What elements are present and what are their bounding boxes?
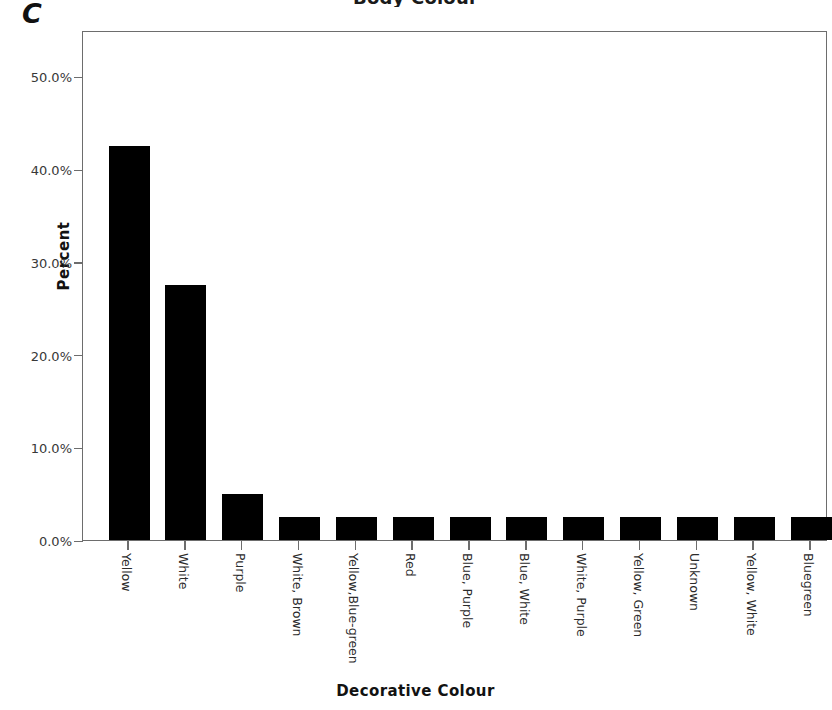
y-axis-tick-label: 40.0% (31, 163, 72, 178)
x-axis-tick-mark (355, 541, 356, 550)
x-axis-tick-mark (809, 541, 810, 550)
x-axis-tick-mark (696, 541, 697, 550)
x-axis-category-label: Blue, Purple (460, 553, 475, 628)
x-axis-tick-mark (411, 541, 412, 550)
x-axis-tick-mark (639, 541, 640, 550)
x-axis-tick-mark (582, 541, 583, 550)
bar (620, 517, 661, 540)
bar (450, 517, 491, 540)
x-axis-category-label: Yellow, White (744, 553, 759, 636)
x-axis-tick-mark (525, 541, 526, 550)
x-axis-category-label: White, Purple (574, 553, 589, 637)
bar (791, 517, 832, 540)
x-axis-category-label: Bluegreen (801, 553, 816, 617)
x-axis-category-label: Unknown (687, 553, 702, 611)
y-axis-tick-label: 0.0% (39, 534, 72, 549)
bar (734, 517, 775, 540)
x-axis-category-label: Yellow (119, 553, 134, 591)
plot-area (82, 31, 827, 541)
x-axis-category-label: Red (403, 553, 418, 577)
x-axis-tick-mark (468, 541, 469, 550)
x-axis-tick-mark (298, 541, 299, 550)
bars-container (83, 32, 826, 540)
chart-title: Body Colour (0, 0, 831, 7)
x-axis-category-label: White, Brown (290, 553, 305, 637)
bar (677, 517, 718, 540)
x-axis-category-label: Yellow,Blue-green (346, 553, 361, 664)
x-axis-tick-mark (752, 541, 753, 550)
x-axis-tick-mark (241, 541, 242, 550)
x-axis-category-label: Yellow, Green (631, 553, 646, 637)
x-axis-tick-mark (184, 541, 185, 550)
x-axis-title: Decorative Colour (0, 682, 831, 700)
bar (109, 146, 150, 540)
x-axis-category-label: Purple (233, 553, 248, 592)
x-axis-category-label: Blue, White (517, 553, 532, 625)
bar (506, 517, 547, 540)
x-axis-category-label: White (176, 553, 191, 589)
y-axis-tick-label: 10.0% (31, 441, 72, 456)
bar (222, 494, 263, 540)
y-axis-tick-label: 30.0% (31, 255, 72, 270)
bar (393, 517, 434, 540)
bar (165, 285, 206, 540)
y-axis-tick-label: 50.0% (31, 70, 72, 85)
y-axis-tick-label: 20.0% (31, 348, 72, 363)
x-axis-tick-mark (127, 541, 128, 550)
bar (336, 517, 377, 540)
bar (563, 517, 604, 540)
panel-letter: C (22, 0, 42, 27)
bar (279, 517, 320, 540)
